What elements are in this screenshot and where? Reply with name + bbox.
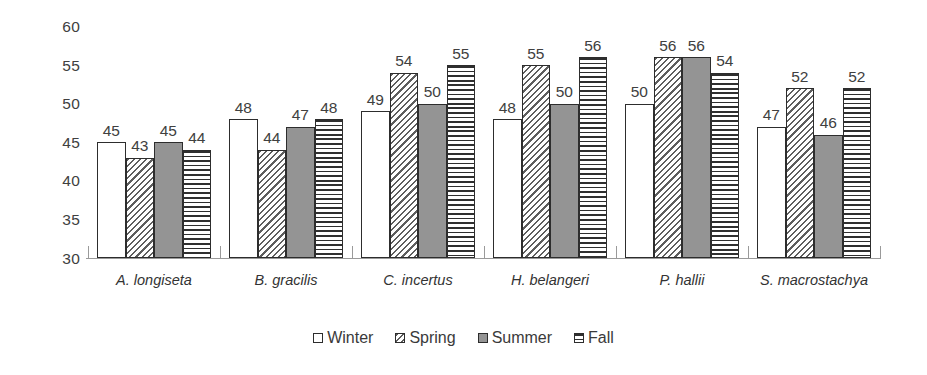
bar-spring-3[interactable]: 54 bbox=[390, 73, 419, 258]
bar-chart: 30354045505560 45434544A. longiseta48444… bbox=[0, 0, 927, 375]
bar-rect bbox=[390, 73, 419, 258]
bar-winter-3[interactable]: 49 bbox=[361, 111, 390, 258]
bar-rect bbox=[286, 127, 315, 258]
bar-rect bbox=[126, 158, 155, 258]
bar-rect bbox=[447, 65, 476, 258]
x-axis-tick bbox=[88, 246, 89, 259]
legend-item-summer[interactable]: Summer bbox=[478, 330, 552, 346]
y-axis: 30354045505560 bbox=[34, 0, 80, 375]
bar-winter-4[interactable]: 48 bbox=[493, 119, 522, 258]
x-axis-tick bbox=[484, 246, 485, 259]
x-axis-tick bbox=[352, 246, 353, 259]
bar-summer-1[interactable]: 45 bbox=[154, 142, 183, 258]
bar-rect bbox=[786, 88, 815, 258]
y-axis-tick-label: 50 bbox=[34, 96, 80, 112]
bar-rect bbox=[418, 104, 447, 258]
bar-summer-6[interactable]: 46 bbox=[814, 135, 843, 258]
bar-rect bbox=[843, 88, 872, 258]
bar-summer-4[interactable]: 50 bbox=[550, 104, 579, 258]
legend-swatch-icon bbox=[574, 333, 584, 343]
bar-rect bbox=[154, 142, 183, 258]
bar-winter-1[interactable]: 45 bbox=[97, 142, 126, 258]
legend-swatch-icon bbox=[478, 333, 488, 343]
bar-value-label: 54 bbox=[702, 53, 749, 69]
legend-item-winter[interactable]: Winter bbox=[313, 330, 373, 346]
bar-spring-6[interactable]: 52 bbox=[786, 88, 815, 258]
bar-fall-2[interactable]: 48 bbox=[315, 119, 344, 258]
bar-winter-5[interactable]: 50 bbox=[625, 104, 654, 258]
legend-item-spring[interactable]: Spring bbox=[395, 330, 455, 346]
x-axis-tick bbox=[220, 246, 221, 259]
bar-rect bbox=[361, 111, 390, 258]
bar-rect bbox=[682, 57, 711, 258]
x-axis-category-label: H. belangeri bbox=[484, 272, 616, 288]
x-axis-tick bbox=[880, 246, 881, 259]
x-axis-tick bbox=[748, 246, 749, 259]
bar-value-label: 52 bbox=[777, 69, 824, 85]
bar-rect bbox=[97, 142, 126, 258]
legend-label: Spring bbox=[409, 330, 455, 346]
y-axis-tick-label: 55 bbox=[34, 58, 80, 74]
bar-fall-1[interactable]: 44 bbox=[183, 150, 212, 258]
bar-group: 47524652 bbox=[757, 26, 871, 258]
x-axis-category-label: B. gracilis bbox=[220, 272, 352, 288]
legend-swatch-icon bbox=[313, 333, 323, 343]
x-axis-tick bbox=[616, 246, 617, 259]
bar-rect bbox=[493, 119, 522, 258]
y-axis-tick-label: 35 bbox=[34, 212, 80, 228]
bar-value-label: 55 bbox=[513, 46, 560, 62]
x-axis-category-label: C. incertus bbox=[352, 272, 484, 288]
bar-group: 49545055 bbox=[361, 26, 475, 258]
legend-label: Summer bbox=[492, 330, 552, 346]
bar-value-label: 52 bbox=[834, 69, 881, 85]
legend-item-fall[interactable]: Fall bbox=[574, 330, 614, 346]
bar-group: 45434544 bbox=[97, 26, 211, 258]
bar-rect bbox=[550, 104, 579, 258]
bar-summer-5[interactable]: 56 bbox=[682, 57, 711, 258]
x-axis-category-label: A. longiseta bbox=[88, 272, 220, 288]
bar-rect bbox=[654, 57, 683, 258]
y-axis-tick-label: 45 bbox=[34, 135, 80, 151]
bar-rect bbox=[315, 119, 344, 258]
bar-value-label: 48 bbox=[306, 100, 353, 116]
bar-value-label: 44 bbox=[174, 130, 221, 146]
legend-swatch-icon bbox=[395, 333, 405, 343]
x-axis-category-label: P. hallii bbox=[616, 272, 748, 288]
bar-value-label: 48 bbox=[220, 100, 267, 116]
bar-rect bbox=[183, 150, 212, 258]
bar-group: 48444748 bbox=[229, 26, 343, 258]
legend-label: Winter bbox=[327, 330, 373, 346]
y-axis-tick-label: 40 bbox=[34, 173, 80, 189]
bar-value-label: 54 bbox=[381, 53, 428, 69]
bar-group: 50565654 bbox=[625, 26, 739, 258]
bar-value-label: 45 bbox=[88, 123, 135, 139]
bar-fall-5[interactable]: 54 bbox=[711, 73, 740, 258]
legend-label: Fall bbox=[588, 330, 614, 346]
bar-value-label: 56 bbox=[673, 38, 720, 54]
bar-rect bbox=[757, 127, 786, 258]
bar-rect bbox=[625, 104, 654, 258]
x-axis-line bbox=[86, 258, 880, 259]
bar-fall-6[interactable]: 52 bbox=[843, 88, 872, 258]
bar-spring-1[interactable]: 43 bbox=[126, 158, 155, 258]
bar-fall-3[interactable]: 55 bbox=[447, 65, 476, 258]
bar-spring-2[interactable]: 44 bbox=[258, 150, 287, 258]
bar-rect bbox=[814, 135, 843, 258]
plot-area: 45434544A. longiseta48444748B. gracilis4… bbox=[88, 0, 880, 375]
y-axis-tick-label: 60 bbox=[34, 19, 80, 35]
bar-rect bbox=[711, 73, 740, 258]
bar-summer-3[interactable]: 50 bbox=[418, 104, 447, 258]
x-axis-category-label: S. macrostachya bbox=[748, 272, 880, 288]
bar-fall-4[interactable]: 56 bbox=[579, 57, 608, 258]
bar-group: 48555056 bbox=[493, 26, 607, 258]
bar-spring-5[interactable]: 56 bbox=[654, 57, 683, 258]
y-axis-tick-label: 30 bbox=[34, 251, 80, 267]
bar-rect bbox=[258, 150, 287, 258]
bar-value-label: 56 bbox=[570, 38, 617, 54]
bar-winter-6[interactable]: 47 bbox=[757, 127, 786, 258]
bar-value-label: 55 bbox=[438, 46, 485, 62]
bar-rect bbox=[579, 57, 608, 258]
chart-legend: WinterSpringSummerFall bbox=[0, 330, 927, 346]
bar-summer-2[interactable]: 47 bbox=[286, 127, 315, 258]
